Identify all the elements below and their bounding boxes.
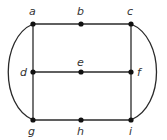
label-h: h <box>77 125 84 138</box>
label-c: c <box>127 5 133 18</box>
graph-diagram: a b c d e f g h i <box>0 0 167 140</box>
label-e: e <box>77 56 84 69</box>
node-h <box>78 117 83 122</box>
node-g <box>30 117 35 122</box>
node-a <box>30 21 35 26</box>
node-b <box>78 21 83 26</box>
label-b: b <box>77 5 84 18</box>
label-d: d <box>20 66 28 79</box>
node-i <box>128 117 133 122</box>
node-e <box>78 69 83 74</box>
label-a: a <box>29 5 36 18</box>
edge-c-i-curved <box>131 24 157 120</box>
node-d <box>30 69 35 74</box>
label-g: g <box>28 125 35 138</box>
label-i: i <box>129 125 132 138</box>
node-f <box>128 69 133 74</box>
node-c <box>128 21 133 26</box>
label-f: f <box>137 66 143 79</box>
